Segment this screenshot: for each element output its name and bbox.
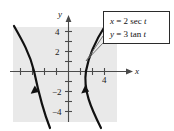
y-tick-label-2: 2 (55, 48, 60, 57)
y-axis-label: y (58, 10, 62, 19)
equation-line-y: y = 3 tan t (110, 28, 146, 41)
x-tick-label-4: 4 (102, 76, 107, 85)
equation-y-parameter: t (144, 29, 147, 39)
parametric-hyperbola-figure: 4 2 −2 −4 4 y x x = 2 sec t y = 3 tan t (0, 0, 174, 131)
equation-y-rhs: = 3 tan (114, 29, 144, 39)
equation-x-parameter: t (144, 16, 147, 26)
equation-x-rhs: = 2 sec (114, 16, 144, 26)
y-tick-label-neg2: −2 (52, 88, 62, 97)
equation-callout-box: x = 2 sec t y = 3 tan t (103, 11, 170, 44)
y-tick-label-neg4: −4 (52, 108, 62, 117)
y-tick-label-4: 4 (55, 28, 60, 37)
equation-line-x: x = 2 sec t (110, 15, 147, 28)
x-axis-label: x (135, 67, 139, 76)
